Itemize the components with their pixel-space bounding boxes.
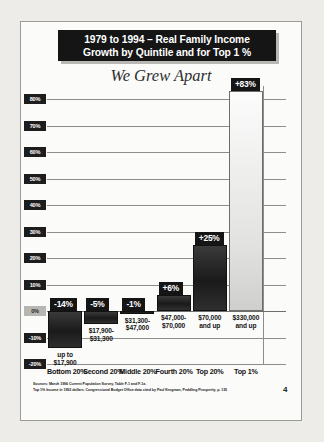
income-range-label: up to$17,900 (38, 351, 92, 366)
y-axis-tick: 20% (24, 253, 46, 263)
y-axis-tick: 80% (24, 94, 46, 104)
category-label: Top 1% (228, 367, 264, 376)
page-number: 4 (283, 385, 287, 394)
chart-subtitle: We Grew Apart (96, 66, 226, 86)
chart-plot-area: 80%70%60%50%40%30%20%10%0%-10%-20%-14%up… (47, 86, 286, 364)
category-axis: Bottom 20%Second 20%Middle 20%Fourth 20%… (47, 367, 286, 378)
slide-page: 1979 to 1994 – Real Family Income Growth… (0, 0, 324, 442)
category-label: Top 20% (192, 367, 228, 376)
y-axis-tick: 40% (24, 200, 46, 210)
bar-value-badge: +6% (159, 282, 183, 295)
bar (229, 91, 263, 311)
category-label: Second 20% (83, 367, 119, 376)
bar-value-badge: +25% (195, 232, 224, 245)
y-axis-tick: 50% (24, 174, 46, 184)
y-axis-tick: 0% (24, 306, 46, 316)
zero-gridline (47, 311, 286, 312)
title-line-1: 1979 to 1994 – Real Family Income (84, 33, 250, 46)
y-axis-tick: 70% (24, 121, 46, 131)
sources-line-2: Top 1% Income in 1993 dollars. Congressi… (33, 387, 273, 393)
y-axis-tick: 60% (24, 147, 46, 157)
bar (193, 245, 227, 311)
y-axis-tick: -10% (24, 333, 46, 343)
bar (157, 295, 191, 311)
bar-value-badge: -14% (50, 298, 77, 311)
bar-value-badge: -1% (122, 298, 144, 311)
category-label: Bottom 20% (47, 367, 83, 376)
category-label: Fourth 20% (156, 367, 192, 376)
title-block: 1979 to 1994 – Real Family Income Growth… (58, 30, 276, 61)
bar-value-badge: -5% (86, 298, 108, 311)
income-range-label: $330,000and up (219, 314, 273, 329)
sources-note: Sources: March 1996 Current Population S… (33, 381, 273, 394)
y-axis-tick: 10% (24, 280, 46, 290)
y-axis-tick: 30% (24, 227, 46, 237)
bar-value-badge: +83% (231, 78, 260, 91)
title-line-2: Growth by Quintile and for Top 1 % (83, 46, 251, 59)
category-label: Middle 20% (119, 367, 155, 376)
